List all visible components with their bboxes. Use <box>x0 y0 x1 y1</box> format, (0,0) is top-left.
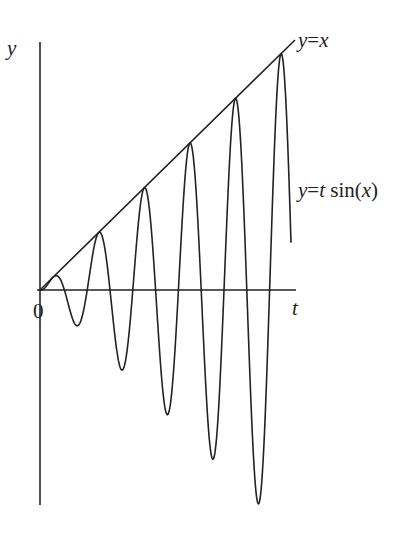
origin-label: 0 <box>33 299 44 323</box>
line-y-equals-x <box>40 40 295 290</box>
line-label: y=x <box>296 28 329 52</box>
t-axis-label: t <box>292 296 299 320</box>
figure: y 0 t y=x y=t sin(x) <box>0 0 416 535</box>
y-axis-label: y <box>5 36 17 60</box>
curve-t-sin <box>40 54 291 504</box>
curve-label: y=t sin(x) <box>296 178 378 202</box>
